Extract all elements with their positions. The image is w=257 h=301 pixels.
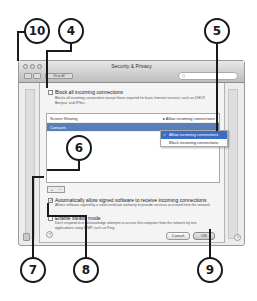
checkmark-icon: ✓	[163, 131, 166, 139]
service-status[interactable]: ● Allow incoming connections	[163, 114, 215, 123]
leader-line-7	[32, 176, 34, 258]
leader-line-6	[47, 169, 80, 171]
back-button[interactable]	[24, 73, 32, 79]
cancel-button[interactable]: Cancel	[166, 232, 190, 240]
service-name: Screen Sharing	[50, 116, 78, 121]
auto-allow-description: Allows software signed by a valid certif…	[55, 203, 215, 208]
callout-10: 10	[24, 18, 50, 44]
leader-line-9	[209, 229, 211, 258]
callout-9: 9	[197, 257, 223, 283]
forward-button[interactable]	[33, 73, 41, 79]
firewall-options-sheet: Block all incoming connections Blocks al…	[39, 83, 225, 243]
leader-line-5	[216, 44, 218, 131]
list-item-screen-sharing[interactable]: Screen Sharing ● Allow incoming connecti…	[47, 114, 219, 123]
nav-buttons	[24, 73, 41, 79]
block-all-row: Block all incoming connections	[48, 89, 123, 95]
menu-item-block[interactable]: Block incoming connections	[161, 139, 227, 147]
ok-button[interactable]: OK	[193, 232, 215, 240]
stealth-mode-description: Don't respond to or acknowledge attempts…	[55, 221, 215, 230]
leader-line-10	[17, 31, 19, 61]
callout-7: 7	[20, 257, 46, 283]
window-help-button[interactable]: ?	[234, 234, 241, 241]
add-app-button[interactable]: +	[48, 187, 56, 192]
annotated-screenshot: 10 4 5 6 7 8 9 Security & Privacy Show	[0, 0, 257, 301]
remove-app-button[interactable]: −	[56, 187, 64, 192]
block-all-checkbox[interactable]	[48, 90, 53, 95]
leader-line-4	[46, 50, 72, 52]
callout-4: 4	[58, 18, 84, 44]
sheet-help-button[interactable]: ?	[46, 231, 53, 238]
callout-6: 6	[66, 135, 92, 161]
leader-line-8	[47, 215, 87, 217]
title-bar: Security & Privacy Show All Q	[19, 61, 244, 83]
leader-line-4	[46, 50, 48, 88]
callout-5: 5	[204, 18, 230, 44]
search-input[interactable]: Q	[178, 72, 238, 80]
window-title: Security & Privacy	[19, 63, 244, 69]
menu-item-allow[interactable]: ✓ Allow incoming connections	[161, 131, 227, 139]
block-all-description: Blocks all incoming connections except t…	[55, 96, 215, 105]
block-all-label: Block all incoming connections	[55, 89, 123, 95]
leader-line-8	[85, 215, 87, 258]
service-name: Contacts	[50, 125, 66, 130]
leader-line-7	[32, 176, 44, 178]
lock-icon[interactable]	[23, 233, 30, 241]
security-privacy-window: Security & Privacy Show All Q ? Block al…	[18, 60, 245, 246]
background-pane-right	[228, 89, 238, 239]
show-all-button[interactable]: Show All	[45, 73, 73, 79]
connection-popup-menu[interactable]: ✓ Allow incoming connections Block incom…	[160, 130, 228, 147]
callout-8: 8	[73, 257, 99, 283]
add-remove-buttons: + −	[47, 186, 65, 193]
